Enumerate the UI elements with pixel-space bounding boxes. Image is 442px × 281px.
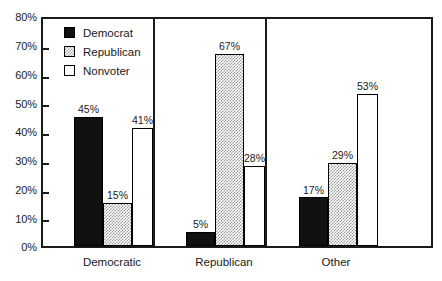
bar-other-nonvoter bbox=[357, 94, 378, 246]
legend-label: Democrat bbox=[83, 27, 133, 39]
legend-label: Nonvoter bbox=[83, 65, 130, 77]
legend-item-nonvoter: Nonvoter bbox=[64, 61, 174, 80]
x-axis-group-separator bbox=[265, 19, 267, 246]
legend-label: Republican bbox=[83, 46, 141, 58]
y-axis-labels: 80% 70% 60% 50% 40% 30% 20% 10% 0% bbox=[0, 0, 37, 281]
bar-democratic-nonvoter bbox=[132, 128, 153, 246]
y-axis-tick-label: 60% bbox=[0, 69, 37, 81]
plot-area: 45% 15% 41% 5% 67% 28% 17% 29% 53% Democ… bbox=[41, 17, 433, 248]
bar-republican-nonvoter bbox=[244, 166, 265, 246]
y-axis-tick-mark bbox=[43, 105, 49, 107]
plot-inner: 45% 15% 41% 5% 67% 28% 17% 29% 53% Democ… bbox=[43, 19, 431, 246]
y-axis-tick-label: 10% bbox=[0, 213, 37, 225]
y-axis-tick-mark bbox=[43, 163, 49, 165]
bar-value-label: 15% bbox=[92, 189, 143, 201]
y-axis-tick-mark bbox=[43, 48, 49, 50]
legend-swatch-nonvoter-icon bbox=[64, 65, 75, 76]
chart-legend: Democrat Republican Nonvoter bbox=[64, 23, 174, 80]
y-axis-tick-label: 40% bbox=[0, 126, 37, 138]
legend-item-republican: Republican bbox=[64, 42, 174, 61]
bar-value-label: 17% bbox=[288, 184, 339, 196]
y-axis-tick-mark bbox=[43, 77, 49, 79]
bar-value-label: 5% bbox=[175, 218, 226, 230]
x-axis-category-label-other: Other bbox=[266, 256, 406, 268]
bar-value-label: 45% bbox=[63, 103, 114, 115]
y-axis-tick-label: 50% bbox=[0, 98, 37, 110]
y-axis-tick-label: 70% bbox=[0, 40, 37, 52]
bar-value-label: 29% bbox=[317, 149, 368, 161]
y-axis-tick-label: 80% bbox=[0, 11, 37, 23]
y-axis-tick-mark bbox=[43, 220, 49, 222]
legend-item-democrat: Democrat bbox=[64, 23, 174, 42]
bar-other-democrat bbox=[299, 197, 328, 246]
bar-republican-democrat bbox=[186, 232, 215, 246]
bar-value-label: 67% bbox=[204, 40, 255, 52]
bar-chart: 80% 70% 60% 50% 40% 30% 20% 10% 0% 45% bbox=[0, 0, 442, 281]
y-axis-tick-mark bbox=[43, 134, 49, 136]
bar-other-republican bbox=[328, 163, 357, 246]
bar-democratic-democrat bbox=[74, 117, 103, 246]
bar-democratic-republican bbox=[103, 203, 132, 246]
bar-value-label: 53% bbox=[342, 80, 393, 92]
legend-swatch-republican-icon bbox=[64, 46, 75, 57]
legend-swatch-democrat-icon bbox=[64, 27, 75, 38]
y-axis-tick-mark bbox=[43, 192, 49, 194]
y-axis-tick-label: 0% bbox=[0, 241, 37, 253]
bar-value-label: 28% bbox=[229, 152, 280, 164]
y-axis-tick-label: 20% bbox=[0, 184, 37, 196]
bar-value-label: 41% bbox=[117, 114, 168, 126]
y-axis-tick-label: 30% bbox=[0, 155, 37, 167]
